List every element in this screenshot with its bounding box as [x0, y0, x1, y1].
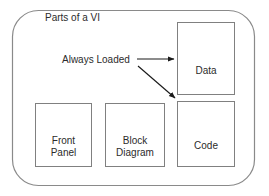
node-box-block-diagram[interactable] — [106, 104, 165, 167]
node-box-data[interactable] — [178, 23, 235, 95]
annotation-always-loaded: Always Loaded — [62, 54, 130, 65]
diagram-title: Parts of a VI — [45, 12, 100, 23]
arrow-to-code — [138, 66, 175, 98]
diagram-graphics — [0, 0, 269, 196]
diagram-canvas: Parts of a VI Always Loaded Data Front P… — [0, 0, 269, 196]
node-box-front-panel[interactable] — [36, 104, 92, 167]
node-box-code[interactable] — [178, 102, 235, 167]
